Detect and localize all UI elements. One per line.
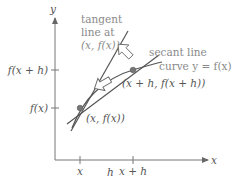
secant-annotation: secant line [149, 46, 207, 58]
x-axis-label: x [211, 154, 217, 166]
point-label-xh-fxh: (x + h, f(x + h)) [122, 77, 205, 89]
curve-annotation: curve y = f(x) [159, 60, 232, 72]
point-xh-fxh [130, 67, 136, 73]
y-ticks: f(x + h) f(x) [7, 64, 59, 114]
y-tick-label-fx: f(x) [29, 102, 48, 114]
y-tick-label-fxh: f(x + h) [7, 64, 48, 76]
tangent-annotation-3: (x, f(x)) [81, 39, 120, 51]
y-axis-label: y [49, 3, 57, 15]
h-label: h [107, 166, 114, 178]
x-tick-label-xh: x + h [119, 165, 147, 177]
tangent-annotation-2: line at [81, 26, 115, 38]
tangent-annotation-1: tangent [81, 13, 123, 25]
point-label-x-fx: (x, f(x)) [86, 112, 125, 124]
x-tick-label-x: x [77, 165, 83, 177]
derivative-diagram: y x f(x + h) f(x) x x + h (x, f(x)) (x +… [0, 0, 236, 181]
point-x-fx [77, 105, 83, 111]
